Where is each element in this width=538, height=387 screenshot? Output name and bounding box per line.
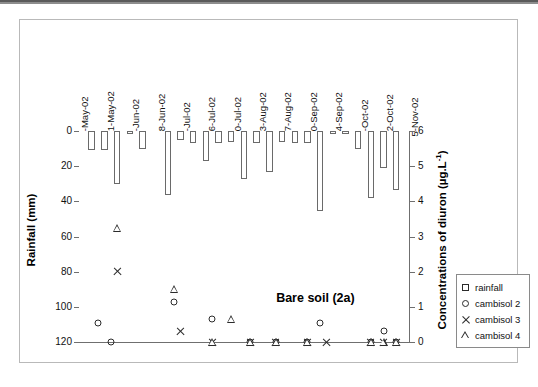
right-axis-tick-label: 4 [418, 195, 432, 206]
circle-marker [209, 316, 216, 323]
data-point-cambisol-4 [113, 224, 121, 232]
rainfall-bar [203, 131, 209, 161]
x-axis-date-label: 10-Sep-02 [308, 92, 318, 136]
rainfall-bar [127, 131, 133, 134]
right-axis-tick-label: 0 [418, 336, 432, 347]
triangle-icon [461, 330, 471, 340]
right-axis-title-text: Concentrations of diuron (µg.L-1) [434, 150, 448, 329]
data-point-cambisol-3 [176, 327, 185, 336]
triangle-marker [246, 338, 254, 346]
data-point-cambisol-2 [95, 319, 102, 326]
left-axis-title-text: Rainfall (mm) [25, 194, 37, 267]
square-icon [462, 284, 469, 291]
data-point-cambisol-4 [246, 338, 254, 346]
right-axis-title: Concentrations of diuron (µg.L-1) [432, 140, 450, 340]
legend-item-cambisol-2[interactable]: cambisol 2 [461, 295, 525, 311]
triangle-marker [303, 338, 311, 346]
rainfall-bar [342, 131, 348, 134]
data-point-cambisol-3 [113, 267, 122, 276]
rainfall-bar [304, 131, 310, 143]
data-point-cambisol-4 [367, 338, 375, 346]
circle-marker [107, 339, 114, 346]
right-axis-tick-label: 3 [418, 231, 432, 242]
triangle-marker [380, 338, 388, 346]
data-point-cambisol-3 [322, 338, 331, 347]
plot-annotation: Bare soil (2a) [276, 291, 355, 305]
triangle-marker [113, 224, 121, 232]
rainfall-bar [279, 131, 285, 142]
legend-item-label: cambisol 4 [475, 330, 520, 341]
left-axis-tick-label: 120 [39, 336, 72, 347]
circle-marker [95, 319, 102, 326]
legend-item-cambisol-3[interactable]: cambisol 3 [461, 311, 525, 327]
cross-marker [322, 338, 331, 347]
rainfall-bar [215, 131, 221, 143]
left-axis-tick-label: 40 [39, 195, 72, 206]
data-point-cambisol-4 [170, 285, 178, 293]
rainfall-bar [266, 131, 272, 172]
data-point-cambisol-4 [380, 338, 388, 346]
data-point-cambisol-2 [107, 339, 114, 346]
rainfall-bar [177, 131, 183, 140]
rainfall-bar [368, 131, 374, 198]
data-point-cambisol-2 [317, 319, 324, 326]
circle-icon [462, 300, 469, 307]
right-axis-tick [410, 237, 415, 238]
bottom-axis-line [79, 342, 410, 343]
triangle-icon [461, 331, 469, 338]
left-axis-tick-label: 60 [39, 231, 72, 242]
right-axis-tick [410, 272, 415, 273]
data-point-cambisol-4 [227, 315, 235, 323]
legend-item-rainfall[interactable]: rainfall [461, 279, 525, 295]
square-icon [461, 282, 471, 292]
x-axis-date-label: 5-Nov-02 [410, 97, 420, 136]
rainfall-bar [317, 131, 323, 211]
rainfall-bar [114, 131, 120, 184]
legend-item-label: cambisol 2 [475, 298, 520, 309]
rainfall-bar [228, 131, 234, 142]
legend: rainfallcambisol 2cambisol 3cambisol 4 [456, 274, 530, 348]
triangle-marker [272, 338, 280, 346]
rainfall-bar [393, 131, 399, 190]
right-axis-tick-label: 2 [418, 266, 432, 277]
right-axis-tick-label: 5 [418, 160, 432, 171]
left-axis-tick-label: 0 [39, 125, 72, 136]
rainfall-bar [330, 131, 336, 134]
right-axis-tick [410, 307, 415, 308]
rainfall-bar [355, 131, 361, 149]
circle-marker [317, 319, 324, 326]
cross-marker [176, 327, 185, 336]
triangle-marker [367, 338, 375, 346]
left-axis-tick [74, 342, 79, 343]
plot-area: Bare soil (2a) [79, 131, 409, 342]
rainfall-bar [165, 131, 171, 195]
right-axis-tick-label: 1 [418, 301, 432, 312]
cross-marker [113, 267, 122, 276]
rainfall-bar [241, 131, 247, 179]
triangle-marker [392, 338, 400, 346]
triangle-marker [170, 285, 178, 293]
data-point-cambisol-4 [272, 338, 280, 346]
right-axis-tick [410, 166, 415, 167]
triangle-marker [208, 338, 216, 346]
right-axis-unit-exponent: -1 [434, 154, 443, 161]
x-axis-date-label: 13-Aug-02 [258, 92, 268, 136]
rainfall-bar [190, 131, 196, 143]
right-axis-tick-label: 6 [418, 125, 432, 136]
circle-marker [380, 328, 387, 335]
right-axis-tick [410, 201, 415, 202]
rainfall-bar [139, 131, 145, 149]
legend-item-cambisol-4[interactable]: cambisol 4 [461, 327, 525, 343]
right-axis-title-main: Concentrations of diuron (µg.L-1) [436, 150, 448, 329]
triangle-marker [227, 315, 235, 323]
legend-item-label: rainfall [475, 282, 503, 293]
rainfall-bar [253, 131, 259, 143]
left-axis-tick-label: 20 [39, 160, 72, 171]
rainfall-bar [88, 131, 94, 150]
data-point-cambisol-2 [209, 316, 216, 323]
left-axis-tick-label: 100 [39, 301, 72, 312]
circle-icon [461, 298, 471, 308]
data-point-cambisol-2 [171, 298, 178, 305]
data-point-cambisol-4 [303, 338, 311, 346]
circle-marker [171, 298, 178, 305]
